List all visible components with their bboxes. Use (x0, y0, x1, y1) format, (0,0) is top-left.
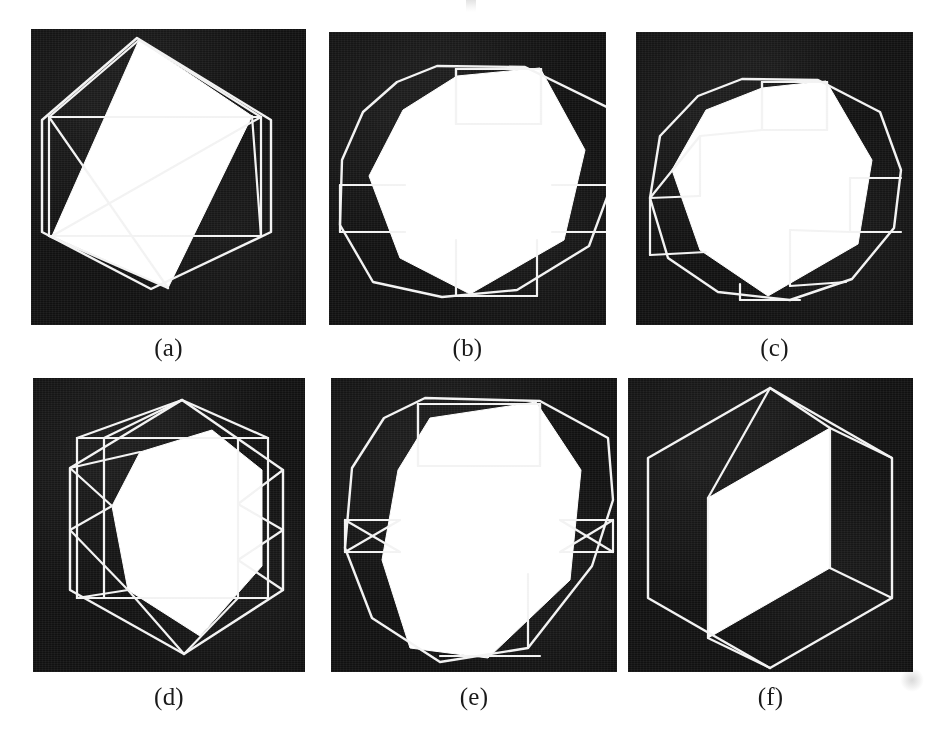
filled-face-c (672, 81, 872, 296)
figure-panel-a (31, 29, 306, 325)
edge-a-5 (252, 116, 261, 236)
panel-caption-a: (a) (31, 333, 306, 363)
figure-panel-d (33, 378, 305, 672)
polyhedron-drawing-b (329, 32, 606, 325)
polyhedron-drawing-c (636, 32, 913, 325)
panel-caption-d: (d) (33, 682, 305, 712)
polyhedron-drawing-a (31, 29, 306, 325)
polyhedron-drawing-d (33, 378, 305, 672)
polyhedron-drawing-e (331, 378, 617, 672)
figure-panel-e (331, 378, 617, 672)
figure-panel-b (329, 32, 606, 325)
edge-f-5 (830, 568, 892, 598)
filled-face-f (708, 428, 830, 638)
edge-f-3 (770, 388, 830, 428)
edge-f-4 (830, 428, 892, 458)
panel-caption-c: (c) (636, 333, 913, 363)
filled-face-d (112, 430, 262, 636)
panel-caption-b: (b) (329, 333, 606, 363)
edge-f-2 (708, 638, 770, 668)
scan-artifact-top (466, 0, 476, 12)
edge-d-6 (77, 590, 128, 598)
filled-face-b (369, 68, 585, 294)
figure-root: (a)(b)(c)(d)(e)(f) (0, 0, 944, 746)
polyhedron-drawing-f (628, 378, 913, 672)
figure-panel-f (628, 378, 913, 672)
panel-caption-e: (e) (331, 682, 617, 712)
edge-d-8 (104, 400, 182, 438)
edge-d-1 (182, 400, 268, 438)
panel-caption-f: (f) (628, 682, 913, 712)
edge-c-8 (650, 252, 706, 255)
figure-panel-c (636, 32, 913, 325)
